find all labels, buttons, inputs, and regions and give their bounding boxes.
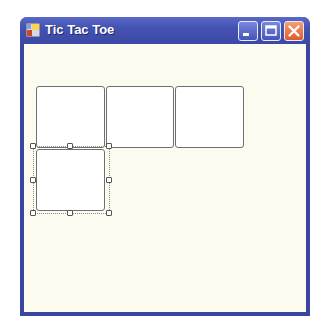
resize-handle-nw[interactable] xyxy=(30,143,36,149)
minimize-icon xyxy=(239,22,257,40)
resize-handle-n[interactable] xyxy=(67,143,73,149)
minimize-button[interactable] xyxy=(238,21,258,41)
form-client-area xyxy=(24,44,306,312)
maximize-icon xyxy=(262,22,280,40)
board-cell-0-2[interactable] xyxy=(175,86,244,148)
resize-handle-ne[interactable] xyxy=(106,143,112,149)
application-form-icon xyxy=(26,23,40,37)
board-cell-0-0[interactable] xyxy=(36,86,105,148)
resize-handle-e[interactable] xyxy=(106,177,112,183)
selection-outline xyxy=(33,146,110,214)
resize-handle-s[interactable] xyxy=(67,210,73,216)
resize-handle-w[interactable] xyxy=(30,177,36,183)
maximize-button[interactable] xyxy=(261,21,281,41)
resize-handle-se[interactable] xyxy=(106,210,112,216)
app-window: Tic Tac Toe xyxy=(20,17,310,316)
board-cell-0-1[interactable] xyxy=(106,86,174,148)
close-icon xyxy=(285,22,303,40)
window-title: Tic Tac Toe xyxy=(45,22,114,37)
close-button[interactable] xyxy=(284,21,304,41)
title-bar[interactable]: Tic Tac Toe xyxy=(20,17,310,44)
resize-handle-sw[interactable] xyxy=(30,210,36,216)
